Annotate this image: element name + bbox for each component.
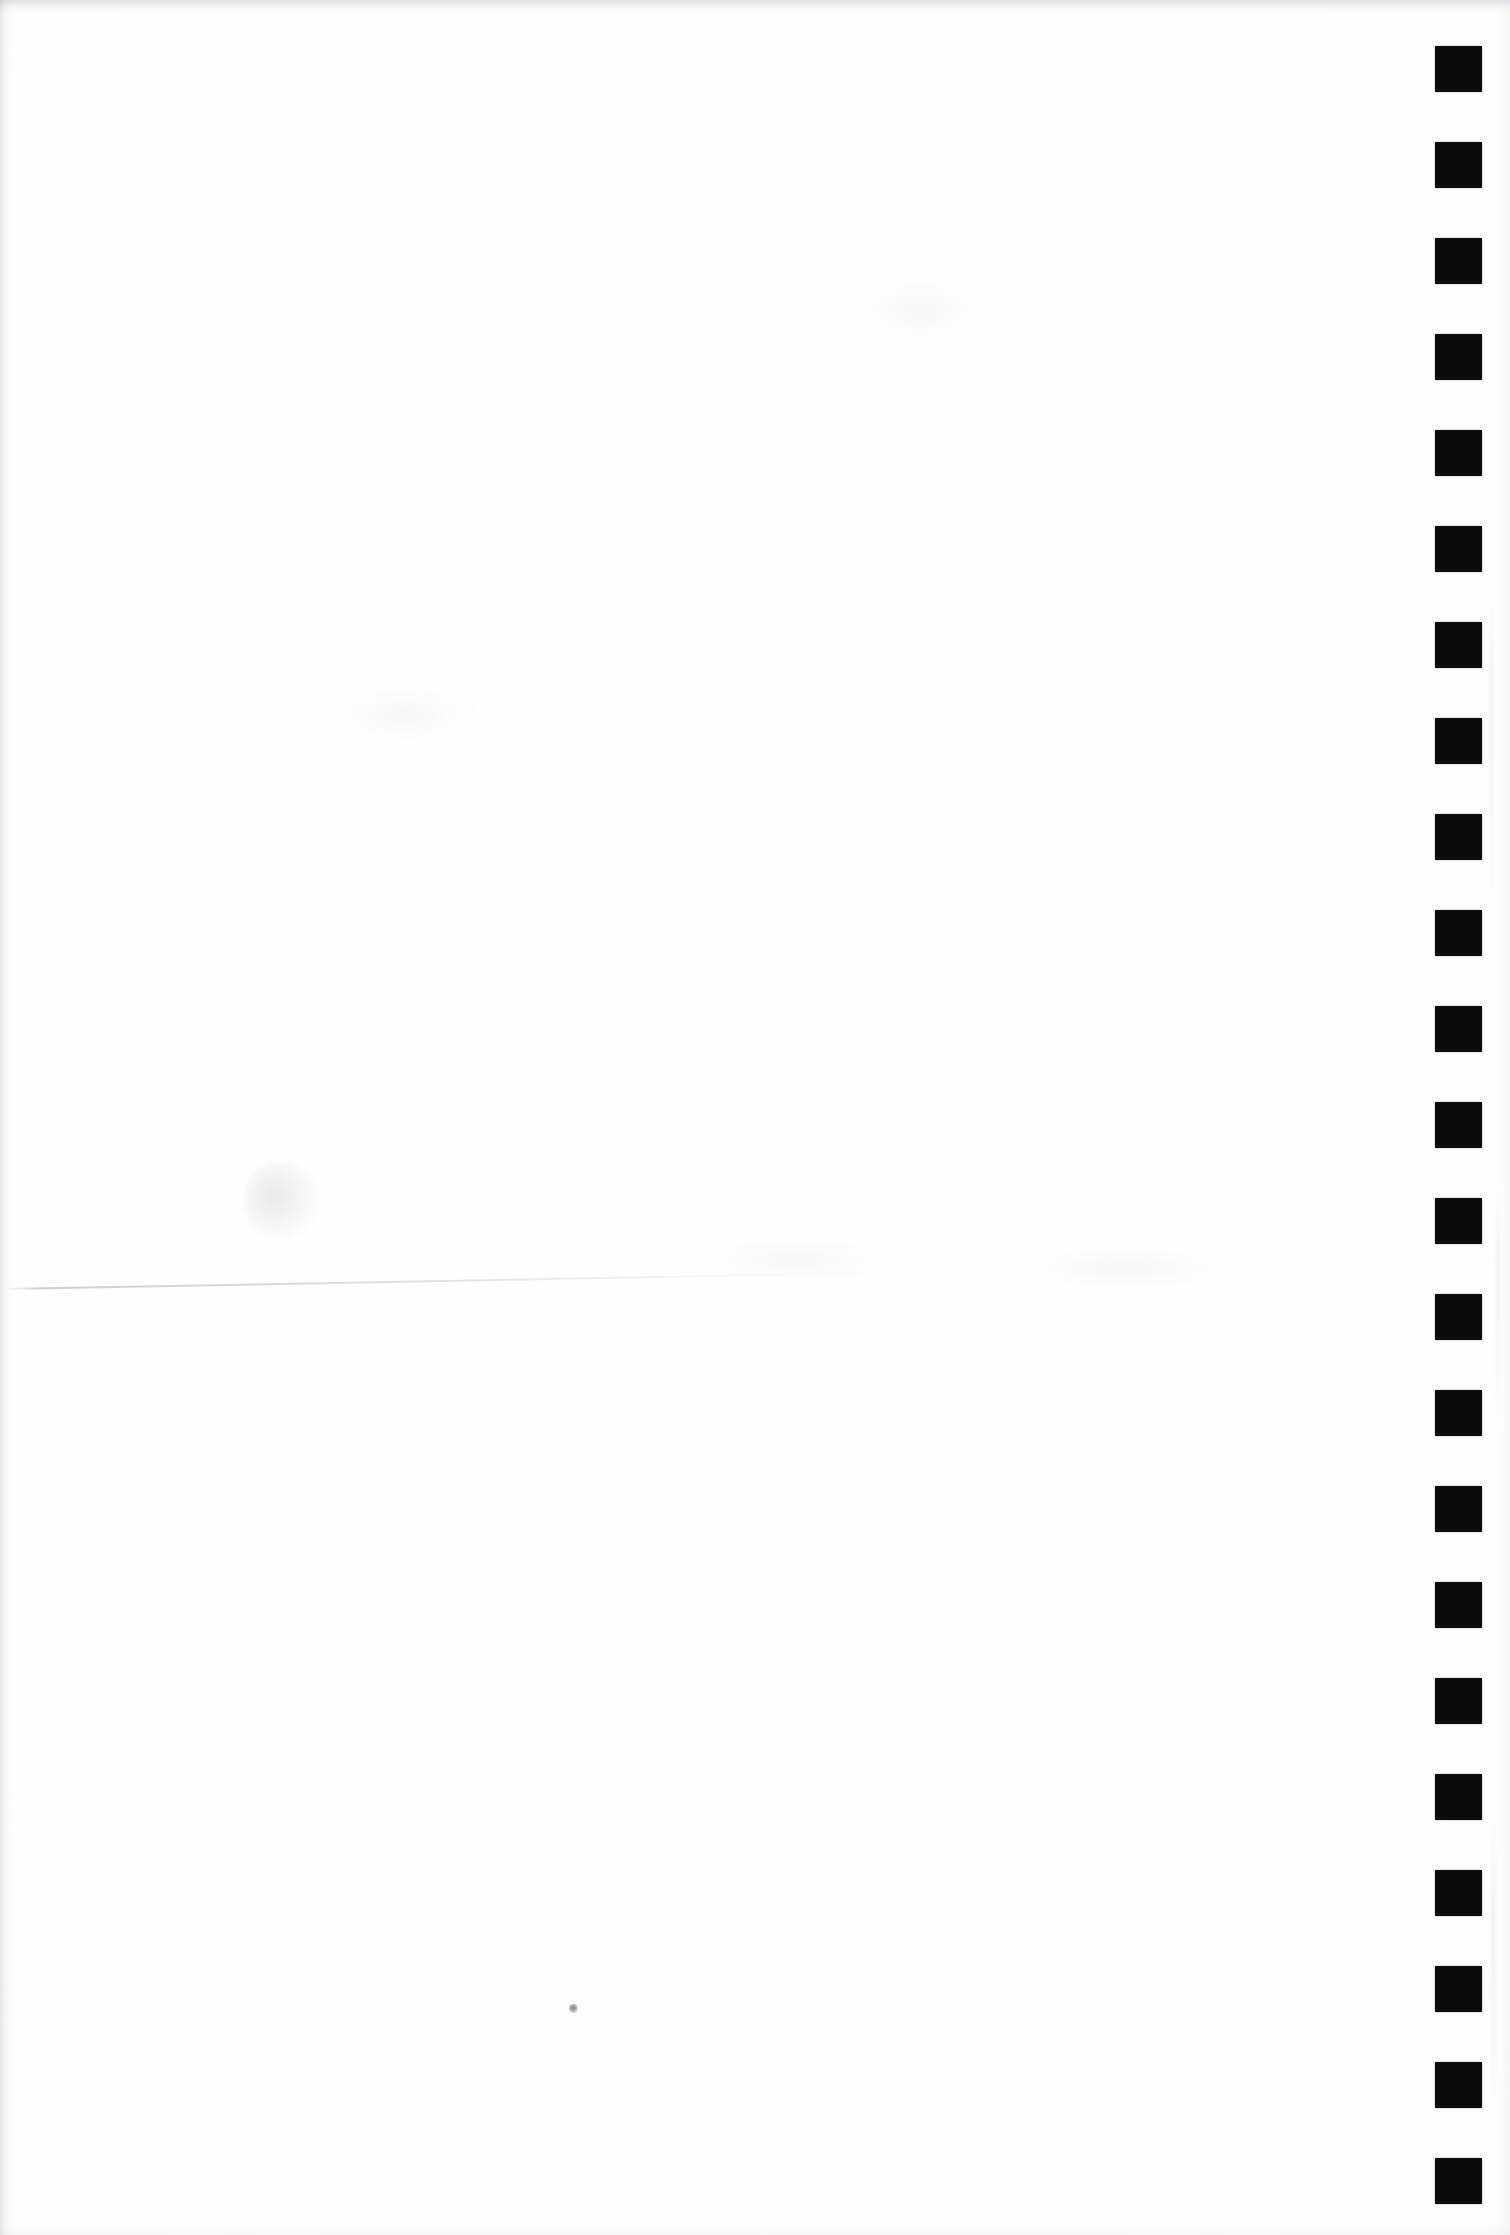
register-mark (1435, 46, 1482, 92)
register-mark (1435, 1774, 1482, 1820)
register-mark (1435, 622, 1482, 668)
register-mark (1435, 526, 1482, 572)
register-mark (1435, 334, 1482, 380)
register-mark (1435, 1198, 1482, 1244)
register-mark (1435, 1966, 1482, 2012)
register-mark (1435, 1390, 1482, 1436)
register-mark (1435, 910, 1482, 956)
register-mark (1435, 1678, 1482, 1724)
scanned-page: Blank scanned page with register mark st… (0, 0, 1510, 2235)
register-mark (1435, 430, 1482, 476)
register-mark (1435, 1870, 1482, 1916)
register-mark-strip (0, 0, 1510, 2235)
register-mark (1435, 142, 1482, 188)
register-mark (1435, 1486, 1482, 1532)
register-mark (1435, 1102, 1482, 1148)
register-mark (1435, 814, 1482, 860)
register-mark (1435, 238, 1482, 284)
register-mark (1435, 2062, 1482, 2108)
register-mark (1435, 2158, 1482, 2204)
register-mark (1435, 1006, 1482, 1052)
register-mark (1435, 718, 1482, 764)
register-mark (1435, 1294, 1482, 1340)
register-mark (1435, 1582, 1482, 1628)
